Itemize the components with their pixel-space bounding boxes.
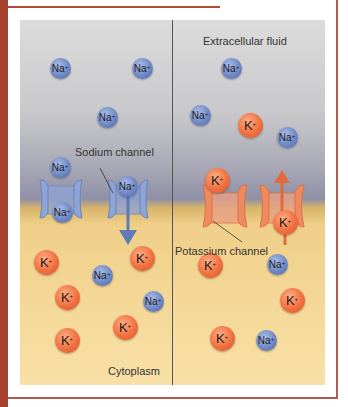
sodium-ion: Na+: [132, 58, 153, 79]
cytoplasm-label: Cytoplasm: [108, 365, 160, 377]
sodium-ion: Na+: [221, 58, 242, 79]
frame-border-right: [336, 0, 338, 398]
potassium-channel-pointer: [213, 221, 242, 242]
sodium-ion: Na+: [267, 254, 288, 275]
sodium-ion: Na+: [50, 157, 71, 178]
potassium-ion: K+: [34, 250, 59, 275]
potassium-channel-label: Potassium channel: [175, 245, 268, 257]
sodium-ion: Na+: [117, 176, 138, 197]
potassium-ion: K+: [210, 326, 235, 351]
potassium-channel-1: [203, 185, 247, 227]
potassium-ion: K+: [280, 288, 305, 313]
frame-border-bottom: [8, 397, 338, 399]
sodium-ion: Na+: [97, 107, 118, 128]
sodium-ion: Na+: [190, 105, 211, 126]
potassium-ion: K+: [238, 113, 263, 138]
potassium-ion: K+: [113, 315, 138, 340]
potassium-ion: K+: [205, 168, 230, 193]
diagram-panel: Na+Na+Na+Na+Na+Na+K+K+Na+K+Na+K+K+Na+Na+…: [20, 20, 325, 385]
header-rule: [8, 6, 220, 8]
sodium-ion: Na+: [277, 127, 298, 148]
sodium-ion: Na+: [143, 291, 164, 312]
left-accent-strip: [0, 0, 8, 407]
sodium-ion: Na+: [256, 330, 277, 351]
sodium-ion: Na+: [52, 202, 73, 223]
potassium-ion: K+: [130, 246, 155, 271]
potassium-ion: K+: [55, 285, 80, 310]
sodium-channel-label: Sodium channel: [75, 146, 154, 158]
sodium-ion: Na+: [50, 58, 71, 79]
potassium-ion: K+: [55, 328, 80, 353]
extracellular-label: Extracellular fluid: [203, 35, 287, 47]
potassium-ion: K+: [273, 210, 298, 235]
sodium-ion: Na+: [92, 265, 113, 286]
